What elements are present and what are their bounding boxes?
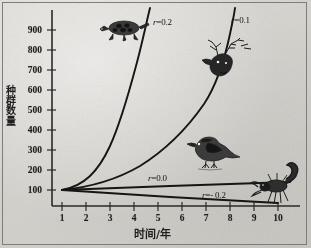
x-tick-label-6: 6 [175, 214, 189, 224]
x-tick-label-9: 9 [247, 214, 261, 224]
y-axis-title-char-4: 量 [4, 117, 17, 127]
x-tick-label-1: 1 [55, 214, 69, 224]
x-tick-label-8: 8 [223, 214, 237, 224]
x-tick-label-10: 10 [269, 214, 287, 224]
x-tick-label-4: 4 [127, 214, 141, 224]
y-tick-label-600: 600 [16, 86, 42, 96]
curve-r-0-1 [62, 8, 235, 190]
curve-label-r-minus-0-2: r=- 0.2 [202, 190, 226, 200]
y-tick-label-200: 200 [16, 166, 42, 176]
y-tick-label-500: 500 [16, 106, 42, 116]
curve-label-r-value: =0.2 [156, 17, 172, 27]
y-tick-label-800: 800 [16, 46, 42, 56]
curve-label-r-0-1: r=0.1 [231, 15, 250, 25]
curve-label-r-0-2: r=0.2 [153, 17, 172, 27]
y-axis-title: 种 群 数 量 [4, 86, 17, 127]
x-tick-label-2: 2 [79, 214, 93, 224]
x-tick-label-3: 3 [103, 214, 117, 224]
curve-label-r-value: =0.1 [234, 15, 250, 25]
curve-label-r-value: =0.0 [151, 173, 167, 183]
y-tick-label-400: 400 [16, 126, 42, 136]
curve-r-minus-0-2 [62, 190, 278, 203]
curve-label-r-0-0: r=0.0 [148, 173, 167, 183]
y-tick-label-900: 900 [16, 26, 42, 36]
y-tick-label-300: 300 [16, 146, 42, 156]
y-tick-label-700: 700 [16, 66, 42, 76]
figure-population-growth-curves: 100 200 300 400 500 600 700 800 900 1 2 … [0, 0, 311, 248]
x-axis-title: 时间/年 [134, 225, 171, 241]
plot-area [0, 0, 311, 248]
curve-label-r-value: =- 0.2 [205, 190, 225, 200]
curve-r-0-2 [62, 8, 150, 190]
x-tick-label-5: 5 [151, 214, 165, 224]
y-tick-label-100: 100 [16, 186, 42, 196]
x-tick-label-7: 7 [199, 214, 213, 224]
